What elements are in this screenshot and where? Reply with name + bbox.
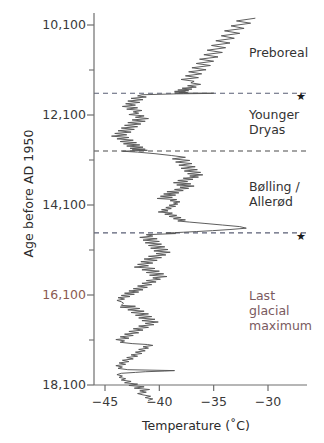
y-tick-label-2: 14,100 — [12, 197, 86, 212]
region-annotation-3: Last glacial maximum — [249, 288, 312, 333]
region-annotation-0: Preboreal — [249, 45, 308, 60]
y-tick-label-0: 10,100 — [12, 17, 86, 32]
x-tick-label-3: −30 — [238, 394, 298, 409]
region-annotation-1: Younger Dryas — [249, 107, 299, 137]
y-tick-label-3: 16,100 — [12, 287, 86, 302]
x-tick-label-1: −40 — [129, 394, 189, 409]
x-tick-label-2: −35 — [184, 394, 244, 409]
data-curve-0 — [112, 18, 255, 400]
temperature-age-chart: Age before AD 1950 Temperature (˚C) 10,1… — [0, 0, 324, 443]
y-tick-label-4: 18,100 — [12, 377, 86, 392]
y-tick-label-1: 12,100 — [12, 107, 86, 122]
x-tick-label-0: −45 — [75, 394, 135, 409]
region-annotation-2: Bølling / Allerød — [249, 179, 300, 209]
